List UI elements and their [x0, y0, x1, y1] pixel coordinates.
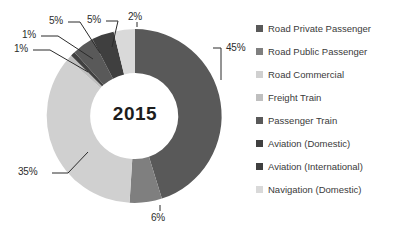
- pct-label-6: 6%: [151, 212, 165, 223]
- pct-label-45: 45%: [226, 42, 245, 53]
- legend-item-road-private-passenger[interactable]: Road Private Passenger: [256, 17, 396, 40]
- legend-item-label: Passenger Train: [268, 115, 337, 126]
- pct-label-2: 2%: [128, 11, 142, 22]
- legend-item-label: Road Commercial: [268, 69, 344, 80]
- pct-label-1-b: 1%: [22, 29, 36, 40]
- pct-label-5-a: 5%: [49, 15, 63, 26]
- legend-item-label: Road Public Passenger: [268, 46, 367, 57]
- legend-item-label: Freight Train: [268, 92, 321, 103]
- chart-legend: Road Private Passenger Road Public Passe…: [256, 17, 396, 201]
- pct-label-1-a: 1%: [14, 43, 28, 54]
- legend-swatch-icon: [256, 25, 263, 32]
- legend-item-passenger-train[interactable]: Passenger Train: [256, 109, 396, 132]
- legend-swatch-icon: [256, 48, 263, 55]
- chart-center-year-label: 2015: [96, 103, 174, 125]
- legend-item-navigation-domestic[interactable]: Navigation (Domestic): [256, 178, 396, 201]
- legend-item-road-public-passenger[interactable]: Road Public Passenger: [256, 40, 396, 63]
- legend-item-label: Aviation (International): [268, 161, 363, 172]
- legend-item-freight-train[interactable]: Freight Train: [256, 86, 396, 109]
- pct-label-35: 35%: [18, 166, 37, 177]
- legend-item-label: Navigation (Domestic): [268, 184, 361, 195]
- legend-item-label: Aviation (Domestic): [268, 138, 350, 149]
- donut-chart: 45% 6% 35% 1% 1% 5% 5% 2% 2015 Road Priv…: [0, 0, 398, 232]
- legend-item-aviation-domestic[interactable]: Aviation (Domestic): [256, 132, 396, 155]
- legend-swatch-icon: [256, 71, 263, 78]
- legend-swatch-icon: [256, 163, 263, 170]
- legend-item-road-commercial[interactable]: Road Commercial: [256, 63, 396, 86]
- legend-item-label: Road Private Passenger: [268, 23, 371, 34]
- legend-swatch-icon: [256, 117, 263, 124]
- legend-item-aviation-international[interactable]: Aviation (International): [256, 155, 396, 178]
- pie-slice-road-commercial: [47, 59, 133, 203]
- pct-label-5-b: 5%: [87, 14, 101, 25]
- legend-swatch-icon: [256, 94, 263, 101]
- legend-swatch-icon: [256, 186, 263, 193]
- legend-swatch-icon: [256, 140, 263, 147]
